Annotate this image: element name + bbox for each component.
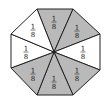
fraction-numerator: 1: [52, 15, 56, 23]
fraction-denominator: 8: [52, 83, 56, 91]
fraction-numerator: 1: [24, 45, 28, 53]
fraction-denominator: 8: [75, 75, 79, 83]
fraction-numerator: 1: [75, 24, 79, 32]
fraction-label-right: 18: [81, 45, 86, 61]
fraction-numerator: 1: [31, 23, 35, 31]
center-point: [53, 51, 56, 54]
fraction-numerator: 1: [75, 67, 79, 75]
fraction-numerator: 1: [81, 45, 85, 53]
fraction-label-top: 18: [52, 15, 57, 31]
fraction-numerator: 1: [52, 75, 56, 83]
fraction-denominator: 8: [31, 75, 35, 83]
fraction-label-bottom: 18: [52, 75, 57, 91]
fraction-denominator: 8: [24, 53, 28, 61]
fraction-denominator: 8: [81, 53, 85, 61]
fraction-label-top-right: 18: [75, 24, 80, 40]
fraction-numerator: 1: [31, 67, 35, 75]
fraction-denominator: 8: [75, 32, 79, 40]
octagon-fraction-diagram: 1818181818181818: [0, 0, 107, 101]
fraction-denominator: 8: [31, 31, 35, 39]
fraction-label-left: 18: [24, 45, 29, 61]
fraction-denominator: 8: [52, 23, 56, 31]
fraction-label-top-left: 18: [31, 23, 36, 39]
fraction-label-bottom-right: 18: [75, 67, 80, 83]
fraction-label-bottom-left: 18: [31, 67, 36, 83]
